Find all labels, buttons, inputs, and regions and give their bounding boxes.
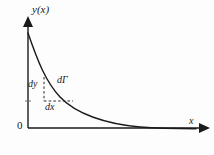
decay-curve	[28, 33, 196, 129]
dy-label: dy	[28, 79, 37, 89]
exponential-decay-figure: y(x) x 0 dy dΓ dx	[0, 0, 214, 155]
x-axis-label: x	[189, 116, 193, 126]
y-axis-label: y(x)	[32, 4, 49, 15]
y-axis-arrowhead	[23, 16, 33, 27]
dx-label: dx	[45, 102, 54, 112]
origin-label: 0	[17, 120, 23, 131]
x-axis-arrowhead	[199, 123, 210, 133]
d-gamma-label: dΓ	[57, 75, 68, 85]
